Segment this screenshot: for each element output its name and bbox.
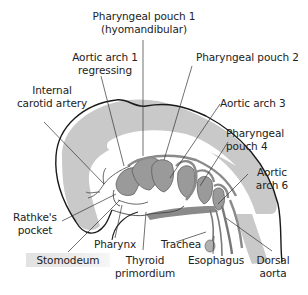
label-aortic-arch-1: Aortic arch 1 regressing [66,51,144,77]
stomodeum-curve [112,212,138,240]
label-line: Internal [12,84,92,97]
label-thyroid-primordium: Thyroid primordium [114,254,176,280]
label-line: pouch 4 [226,140,292,153]
label-dorsal-aorta: Dorsal aorta [254,254,292,280]
label-line: pocket [10,224,60,237]
label-line: Aortic arch 1 [66,51,144,64]
label-line: Pharynx [92,238,138,251]
label-aortic-arch-3: Aortic arch 3 [220,97,300,110]
label-line: arch 6 [252,179,292,192]
label-pharynx: Pharynx [92,238,138,251]
label-pharyngeal-pouch-2: Pharyngeal pouch 2 [196,51,306,64]
label-line: Aortic [252,166,292,179]
label-internal-carotid: Internal carotid artery [12,84,92,110]
label-line: Aortic arch 3 [220,97,300,110]
label-line: Pharyngeal pouch 1 [90,10,198,23]
label-line: Pharyngeal pouch 2 [196,51,306,64]
label-line: Dorsal [254,254,292,267]
label-line: Pharyngeal [226,127,292,140]
label-pharyngeal-pouch-4: Pharyngeal pouch 4 [226,127,292,153]
label-line: Trachea [158,238,204,251]
label-line: Esophagus [186,254,246,267]
label-line: regressing [66,64,144,77]
label-line: Rathke's [10,211,60,224]
label-line: carotid artery [12,97,92,110]
label-line: Stomodeum [36,254,100,267]
label-aortic-arch-6: Aortic arch 6 [252,166,292,192]
label-esophagus: Esophagus [186,254,246,267]
label-line: primordium [114,267,176,280]
label-line: aorta [254,267,292,280]
label-line: (hyomandibular) [90,23,198,36]
label-trachea: Trachea [158,238,204,251]
label-rathkes-pocket: Rathke's pocket [10,211,60,237]
label-pharyngeal-pouch-1: Pharyngeal pouch 1 (hyomandibular) [90,10,198,36]
label-stomodeum: Stomodeum [36,254,100,267]
label-line: Thyroid [114,254,176,267]
